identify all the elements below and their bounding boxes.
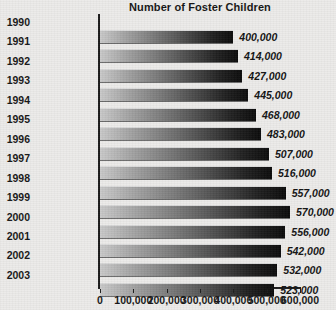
- year-axis-label: 1999: [0, 190, 30, 204]
- bar-row: 427,000: [100, 69, 300, 83]
- bar-value-label: 516,000: [272, 166, 316, 180]
- bar: [100, 147, 269, 161]
- bar-value-label: 400,000: [233, 30, 277, 44]
- bar: [100, 244, 281, 258]
- x-axis-tick: [233, 289, 234, 293]
- bar-value-label: 507,000: [269, 147, 313, 161]
- x-axis-tick: [300, 289, 301, 293]
- bar-row: 507,000: [100, 147, 300, 161]
- year-axis-label: 1991: [0, 34, 30, 48]
- x-axis-tick-label: 600,000: [281, 294, 319, 306]
- chart-title: Number of Foster Children: [100, 1, 300, 13]
- bar-row: 542,000: [100, 244, 300, 258]
- x-axis-tick-label: 400,000: [214, 294, 252, 306]
- bar-row: 400,000: [100, 30, 300, 44]
- bar-row: 556,000: [100, 225, 300, 239]
- bar: [100, 225, 285, 239]
- year-axis-label: 1998: [0, 171, 30, 185]
- bar-value-label: 556,000: [285, 225, 329, 239]
- bar-row: 445,000: [100, 88, 300, 102]
- bar: [100, 263, 277, 277]
- bar: [100, 166, 272, 180]
- bar-row: 570,000: [100, 205, 300, 219]
- x-axis-tick: [100, 289, 101, 293]
- x-axis-tick-label: 500,000: [248, 294, 286, 306]
- bar-row: 483,000: [100, 127, 300, 141]
- x-axis-tick-label: 100,000: [114, 294, 152, 306]
- year-axis-label: 1997: [0, 151, 30, 165]
- year-axis-label: 1992: [0, 54, 30, 68]
- x-axis-tick: [133, 289, 134, 293]
- bar: [100, 49, 238, 63]
- bar-value-label: 570,000: [290, 205, 334, 219]
- year-axis-label: 1990: [0, 15, 30, 29]
- plot-area: 400,000414,000427,000445,000468,000483,0…: [100, 15, 300, 287]
- bar-value-label: 532,000: [277, 263, 321, 277]
- bar-value-label: 468,000: [256, 108, 300, 122]
- year-axis-label: 1995: [0, 112, 30, 126]
- year-axis-label: 1996: [0, 132, 30, 146]
- x-axis-tick-label: 0: [97, 294, 103, 306]
- bar-row: 516,000: [100, 166, 300, 180]
- bar-row: 532,000: [100, 263, 300, 277]
- year-axis-label: 1994: [0, 93, 30, 107]
- x-axis-tick-label: 200,000: [148, 294, 186, 306]
- x-axis-tick: [167, 289, 168, 293]
- bar-value-label: 445,000: [248, 88, 292, 102]
- bar-row: 414,000: [100, 49, 300, 63]
- year-axis-label: 2000: [0, 210, 30, 224]
- year-axis-label: 2003: [0, 268, 30, 282]
- bar-row: 468,000: [100, 108, 300, 122]
- bar-row: 557,000: [100, 186, 300, 200]
- bar-value-label: 427,000: [242, 69, 286, 83]
- bar-value-label: 414,000: [238, 49, 282, 63]
- year-axis-label: 2002: [0, 248, 30, 262]
- foster-children-bar-chart: Number of Foster Children 400,000414,000…: [0, 0, 336, 310]
- bar-value-label: 557,000: [286, 186, 330, 200]
- bar: [100, 108, 256, 122]
- bar: [100, 69, 242, 83]
- bar-value-label: 483,000: [261, 127, 305, 141]
- bar: [100, 205, 290, 219]
- year-axis-label: 1993: [0, 73, 30, 87]
- bar: [100, 30, 233, 44]
- bar-value-label: 542,000: [281, 244, 325, 258]
- bar: [100, 127, 261, 141]
- x-axis-tick: [200, 289, 201, 293]
- x-axis-tick-label: 300,000: [181, 294, 219, 306]
- x-axis-tick: [267, 289, 268, 293]
- bar: [100, 88, 248, 102]
- bar: [100, 186, 286, 200]
- year-axis-label: 2001: [0, 229, 30, 243]
